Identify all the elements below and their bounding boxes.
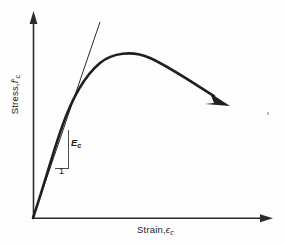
x-axis-arrowhead	[260, 214, 273, 222]
y-axis	[30, 11, 38, 218]
modulus-annotation: Ec	[71, 137, 81, 150]
x-axis	[33, 214, 273, 222]
x-axis-label-subscript: c	[170, 228, 174, 237]
stress-strain-curve	[33, 53, 214, 218]
slope-triangle	[55, 130, 69, 169]
scan-artifact-speck	[267, 112, 269, 115]
curve-arrowhead	[205, 93, 230, 106]
plot-canvas	[0, 0, 285, 245]
stress-strain-figure: Stress,f′c Strain,ϵc Ec 1	[0, 0, 285, 245]
modulus-subscript: c	[77, 141, 81, 150]
x-axis-label: Strain,ϵc	[137, 224, 174, 237]
slope-run-label: 1	[59, 166, 64, 176]
x-axis-label-text: Strain,	[137, 224, 166, 235]
y-axis-label: Stress,f′c	[9, 64, 22, 126]
y-axis-arrowhead	[30, 11, 38, 24]
y-axis-label-text: Stress,	[9, 83, 20, 114]
y-axis-label-prime: ′	[9, 79, 20, 81]
y-axis-label-subscript: c	[13, 75, 22, 79]
y-axis-label-symbol: f	[9, 80, 20, 83]
